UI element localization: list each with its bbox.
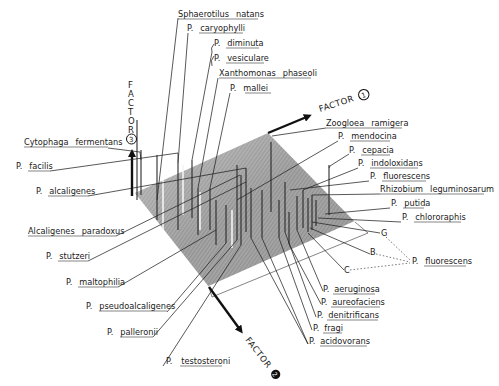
svg-text:FACTOR: FACTOR [243, 335, 273, 370]
svg-text:P.caryophylli: P.caryophylli [187, 23, 245, 33]
svg-text:P.alcaligenes: P.alcaligenes [36, 186, 95, 196]
svg-text:P.aeruginosa: P.aeruginosa [323, 284, 380, 294]
svg-text:P.chlororaphis: P.chlororaphis [402, 212, 466, 222]
label-xanthomonas-phaseoli: Xanthomonasphaseoli [219, 68, 317, 78]
label-p-testosteroni: P.testosteroni [166, 356, 230, 366]
svg-text:P.mallei: P.mallei [230, 83, 268, 93]
label-p-alcaligenes: P.alcaligenes [36, 186, 95, 196]
svg-text:P.vesiculare: P.vesiculare [214, 53, 269, 63]
label-p-fluorescens: P.fluorescens [370, 171, 430, 181]
svg-text:P.palleronii: P.palleronii [107, 327, 158, 337]
label-p-pseudoalcaligenes: P.pseudoalcaligenes [86, 301, 175, 311]
svg-text:P.diminuta: P.diminuta [214, 38, 264, 48]
label-p-chlororaphis: P.chlororaphis [402, 212, 466, 222]
label-p-putida: P.putida [391, 198, 430, 208]
label-p-acidovorans: P.acidovorans [309, 336, 370, 346]
label-p-mallei: P.mallei [230, 83, 271, 93]
svg-text:P.indoloxidans: P.indoloxidans [358, 158, 423, 168]
label-p-diminuta: P.diminuta [214, 38, 264, 48]
svg-text:P.pseudoalcaligenes: P.pseudoalcaligenes [86, 301, 175, 311]
label-p-mendocina: P.mendocina [338, 131, 397, 141]
label-p-maltophilia: P.maltophilia [66, 277, 125, 287]
svg-text:P.maltophilia: P.maltophilia [66, 277, 125, 287]
svg-text:Rhizobiumleguminosarum: Rhizobiumleguminosarum [380, 184, 494, 194]
label-p-fragi: P.fragi [313, 323, 343, 333]
svg-text:3: 3 [129, 136, 134, 144]
svg-text:Xanthomonasphaseoli: Xanthomonasphaseoli [219, 68, 317, 78]
label-sphaerotilus-natans: Sphaerotilusnatans [178, 9, 264, 19]
svg-text:P.stutzeri: P.stutzeri [46, 251, 90, 261]
svg-text:P.aureofaciens: P.aureofaciens [321, 297, 385, 307]
svg-text:P.facilis: P.facilis [16, 161, 53, 171]
label-p-indoloxidans: P.indoloxidans [358, 158, 423, 168]
label-p-denitrificans: P.denitrificans [317, 310, 379, 320]
svg-text:P.fluorescens: P.fluorescens [412, 256, 472, 266]
svg-text:P.mendocina: P.mendocina [338, 131, 397, 141]
factor1-label: FACTOR 1 [317, 88, 370, 114]
factor1-axis-arrow [268, 116, 309, 133]
label-p-caryophylli: P.caryophylli [187, 23, 245, 33]
svg-text:P.fluorescens: P.fluorescens [370, 171, 430, 181]
label-p-palleronii: P.palleronii [107, 327, 158, 337]
label-p-facilis: P.facilis [16, 161, 53, 171]
label-p-fluorescens-biotypes: P.fluorescens [412, 256, 472, 266]
label-p-stutzeri: P.stutzeri [46, 251, 90, 261]
biotype-g: G [381, 228, 387, 238]
svg-text:1: 1 [360, 91, 367, 100]
factor-analysis-figure: F A C T O R 3 FACTOR 1 FACTOR 2 Sphaerot… [0, 0, 499, 386]
svg-text:P.fragi: P.fragi [313, 323, 343, 333]
label-p-aeruginosa: P.aeruginosa [323, 284, 380, 294]
label-p-cepacia: P.cepacia [349, 145, 394, 155]
label-alcaligenes-paradoxus: Alcaligenesparadoxus [28, 226, 125, 236]
svg-text:Zoogloearamigera: Zoogloearamigera [326, 118, 408, 128]
svg-text:Alcaligenesparadoxus: Alcaligenesparadoxus [28, 226, 125, 236]
label-p-vesiculare: P.vesiculare [214, 53, 269, 63]
label-p-aureofaciens: P.aureofaciens [321, 297, 385, 307]
svg-text:P.cepacia: P.cepacia [349, 145, 394, 155]
factor3-label: F A C T O R 3 [127, 80, 137, 144]
label-zoogloea-ramigera: Zoogloearamigera [326, 118, 408, 128]
svg-text:P.denitrificans: P.denitrificans [317, 310, 379, 320]
biotype-c: C [344, 265, 350, 275]
svg-text:FACTOR: FACTOR [318, 93, 356, 114]
svg-text:P.putida: P.putida [391, 198, 430, 208]
factor2-axis-arrow [209, 287, 241, 331]
svg-text:Cytophagafermentans: Cytophagafermentans [24, 137, 122, 147]
svg-text:P.acidovorans: P.acidovorans [309, 336, 370, 346]
svg-text:P.testosteroni: P.testosteroni [166, 356, 230, 366]
svg-text:Sphaerotilusnatans: Sphaerotilusnatans [178, 9, 264, 19]
biotype-b: B [370, 247, 376, 257]
svg-text:R: R [128, 125, 134, 135]
label-cytophaga-fermentans: Cytophagafermentans [24, 137, 122, 147]
label-rhizobium-leguminosarum: Rhizobiumleguminosarum [380, 184, 494, 194]
factor2-label: FACTOR 2 [243, 335, 282, 381]
